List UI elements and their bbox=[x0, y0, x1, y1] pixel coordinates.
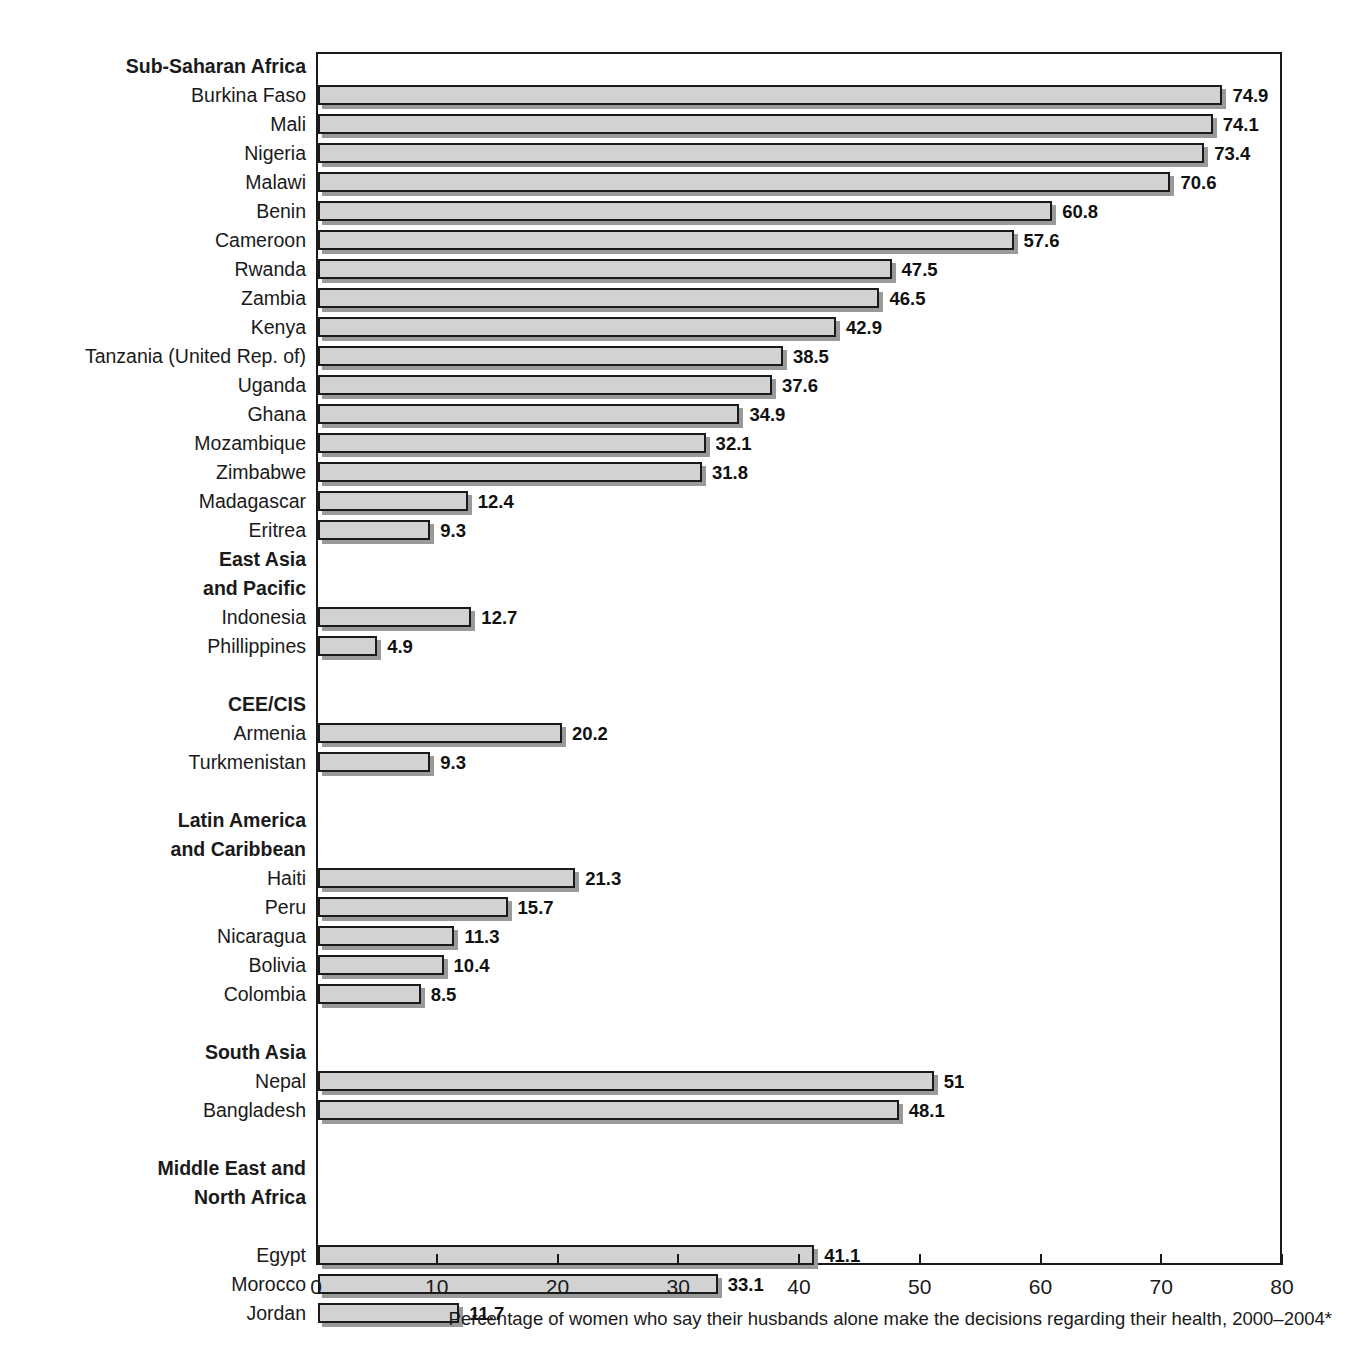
group-label: Latin America bbox=[178, 806, 306, 835]
group-label: Sub-Saharan Africa bbox=[126, 52, 306, 81]
group-label: and Caribbean bbox=[171, 835, 306, 864]
x-tick-label: 20 bbox=[546, 1275, 569, 1299]
category-label: Uganda bbox=[238, 371, 306, 400]
x-tick-label: 50 bbox=[908, 1275, 931, 1299]
category-label: Malawi bbox=[245, 168, 306, 197]
x-axis-caption: Percentage of women who say their husban… bbox=[0, 1308, 1332, 1330]
bar-value-label: 48.1 bbox=[909, 1098, 945, 1123]
category-label: Burkina Faso bbox=[191, 81, 306, 110]
bar-value-label: 10.4 bbox=[454, 953, 490, 978]
bar[interactable] bbox=[318, 1100, 899, 1120]
bar-value-label: 34.9 bbox=[749, 402, 785, 427]
chart-row: Ghana34.9 bbox=[0, 400, 1346, 429]
x-axis: 01020304050607080 bbox=[316, 1265, 1282, 1277]
bar[interactable] bbox=[318, 984, 421, 1004]
bar[interactable] bbox=[318, 636, 377, 656]
chart-row: Nigeria73.4 bbox=[0, 139, 1346, 168]
bar-value-label: 9.3 bbox=[440, 750, 466, 775]
bar[interactable] bbox=[318, 114, 1213, 134]
category-label: Tanzania (United Rep. of) bbox=[85, 342, 306, 371]
bar-value-label: 74.1 bbox=[1223, 112, 1259, 137]
bar[interactable] bbox=[318, 897, 508, 917]
bar-value-label: 74.9 bbox=[1232, 83, 1268, 108]
group-label: CEE/CIS bbox=[228, 690, 306, 719]
x-tick-label: 60 bbox=[1029, 1275, 1052, 1299]
group-label: Middle East and bbox=[158, 1154, 306, 1183]
bar[interactable] bbox=[318, 723, 562, 743]
bar-value-label: 60.8 bbox=[1062, 199, 1098, 224]
bar[interactable] bbox=[318, 1274, 718, 1294]
bar-value-label: 31.8 bbox=[712, 460, 748, 485]
bar[interactable] bbox=[318, 520, 430, 540]
bar-value-label: 47.5 bbox=[902, 257, 938, 282]
bar[interactable] bbox=[318, 1245, 814, 1265]
group-label: North Africa bbox=[194, 1183, 306, 1212]
chart-row: Mali74.1 bbox=[0, 110, 1346, 139]
chart-row: Nicaragua11.3 bbox=[0, 922, 1346, 951]
spacer-row bbox=[0, 1125, 1346, 1154]
bar[interactable] bbox=[318, 955, 444, 975]
category-label: Nicaragua bbox=[217, 922, 306, 951]
group-header-row: East Asia bbox=[0, 545, 1346, 574]
x-tick-mark bbox=[436, 1254, 438, 1265]
category-label: Phillippines bbox=[207, 632, 306, 661]
bar[interactable] bbox=[318, 143, 1204, 163]
x-tick-mark bbox=[1281, 1254, 1283, 1265]
category-label: Bolivia bbox=[249, 951, 306, 980]
bar[interactable] bbox=[318, 230, 1014, 250]
x-tick-label: 80 bbox=[1270, 1275, 1293, 1299]
bar-value-label: 12.4 bbox=[478, 489, 514, 514]
bar[interactable] bbox=[318, 404, 739, 424]
bar-value-label: 46.5 bbox=[889, 286, 925, 311]
group-header-row: South Asia bbox=[0, 1038, 1346, 1067]
chart-row: Benin60.8 bbox=[0, 197, 1346, 226]
bar-value-label: 32.1 bbox=[716, 431, 752, 456]
bar[interactable] bbox=[318, 752, 430, 772]
bar[interactable] bbox=[318, 317, 836, 337]
bar[interactable] bbox=[318, 85, 1222, 105]
bar-value-label: 37.6 bbox=[782, 373, 818, 398]
bar-value-label: 15.7 bbox=[518, 895, 554, 920]
chart-row: Turkmenistan9.3 bbox=[0, 748, 1346, 777]
bar-value-label: 20.2 bbox=[572, 721, 608, 746]
category-label: Peru bbox=[265, 893, 306, 922]
bar[interactable] bbox=[318, 433, 706, 453]
chart-row: Uganda37.6 bbox=[0, 371, 1346, 400]
x-tick-label: 10 bbox=[425, 1275, 448, 1299]
bar[interactable] bbox=[318, 491, 468, 511]
category-label: Benin bbox=[256, 197, 306, 226]
chart-row: Armenia20.2 bbox=[0, 719, 1346, 748]
bar[interactable] bbox=[318, 172, 1170, 192]
bar-value-label: 51 bbox=[944, 1069, 965, 1094]
group-header-row: Latin America bbox=[0, 806, 1346, 835]
x-tick-mark bbox=[1040, 1254, 1042, 1265]
bar[interactable] bbox=[318, 346, 783, 366]
bar[interactable] bbox=[318, 462, 702, 482]
bar[interactable] bbox=[318, 1071, 934, 1091]
chart-row: Mozambique32.1 bbox=[0, 429, 1346, 458]
bar-chart: Sub-Saharan AfricaBurkina Faso74.9Mali74… bbox=[0, 0, 1346, 1363]
bar[interactable] bbox=[318, 375, 772, 395]
bar[interactable] bbox=[318, 926, 454, 946]
bar[interactable] bbox=[318, 868, 575, 888]
bar-value-label: 73.4 bbox=[1214, 141, 1250, 166]
category-label: Madagascar bbox=[199, 487, 306, 516]
bar[interactable] bbox=[318, 288, 879, 308]
bar-value-label: 57.6 bbox=[1024, 228, 1060, 253]
category-label: Turkmenistan bbox=[189, 748, 306, 777]
bar[interactable] bbox=[318, 201, 1052, 221]
x-tick-label: 0 bbox=[310, 1275, 322, 1299]
bar-value-label: 8.5 bbox=[431, 982, 457, 1007]
bar[interactable] bbox=[318, 259, 892, 279]
category-label: Nigeria bbox=[244, 139, 306, 168]
group-label: South Asia bbox=[205, 1038, 306, 1067]
chart-row: Cameroon57.6 bbox=[0, 226, 1346, 255]
bar[interactable] bbox=[318, 607, 471, 627]
chart-row: Indonesia12.7 bbox=[0, 603, 1346, 632]
x-tick-label: 30 bbox=[667, 1275, 690, 1299]
chart-row: Haiti21.3 bbox=[0, 864, 1346, 893]
bar-value-label: 11.3 bbox=[464, 924, 499, 949]
category-label: Haiti bbox=[267, 864, 306, 893]
bar-value-label: 9.3 bbox=[440, 518, 466, 543]
chart-row: Malawi70.6 bbox=[0, 168, 1346, 197]
